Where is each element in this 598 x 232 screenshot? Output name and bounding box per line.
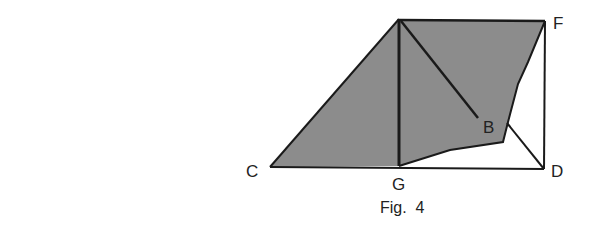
- geometry-diagram: C G D F B Fig. 4: [0, 0, 598, 232]
- label-g: G: [392, 175, 405, 194]
- segment-kink-d: [507, 123, 544, 169]
- segment-fd: [544, 21, 545, 169]
- label-d: D: [551, 162, 563, 181]
- label-f: F: [553, 14, 563, 33]
- label-b: B: [483, 118, 494, 137]
- segment-af: [399, 20, 545, 21]
- segment-cd: [270, 167, 544, 169]
- label-c: C: [246, 162, 258, 181]
- figure-4: C G D F B Fig. 4: [0, 0, 598, 232]
- figure-caption: Fig. 4: [380, 199, 425, 216]
